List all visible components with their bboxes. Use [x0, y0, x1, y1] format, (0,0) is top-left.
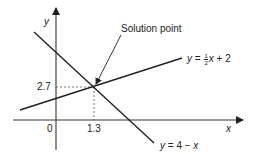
line2-x: x — [193, 140, 198, 151]
origin-label: 0 — [47, 124, 53, 134]
x-tick-label: 1.3 — [87, 124, 101, 134]
x-axis-label: x — [226, 124, 231, 134]
line2-mid: = 4 − — [165, 140, 193, 151]
line1-eq: = — [192, 53, 203, 64]
solution-point-label: Solution point — [121, 24, 182, 34]
y-axis-label: y — [44, 17, 49, 27]
y-tick-label: 2.7 — [37, 82, 51, 92]
fraction-half: 12 — [204, 53, 207, 66]
line1-equation-label: y = 12x + 2 — [187, 53, 231, 66]
frac-num: 1 — [204, 53, 207, 60]
line2-equation-label: y = 4 − x — [160, 141, 198, 151]
line1-const: + 2 — [214, 53, 231, 64]
solution-pointer — [96, 35, 121, 84]
frac-den: 2 — [204, 60, 207, 66]
